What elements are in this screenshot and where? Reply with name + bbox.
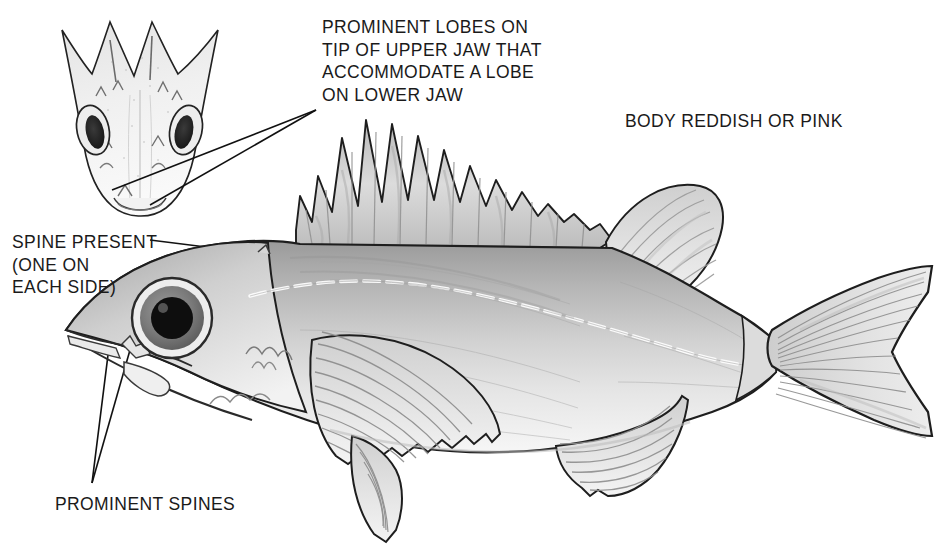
fish-body: [66, 120, 932, 542]
caudal-fin-outline: [768, 266, 933, 436]
label-upper-jaw-lobes: PROMINENT LOBES ON TIP OF UPPER JAW THAT…: [322, 16, 542, 106]
leader-spines-1: [92, 355, 108, 483]
label-body-color: BODY REDDISH OR PINK: [625, 110, 843, 133]
label-head-spine: SPINE PRESENT (ONE ON EACH SIDE): [12, 231, 157, 299]
label-opercular-spines: PROMINENT SPINES: [55, 493, 235, 516]
spiny-dorsal-fin: [296, 120, 612, 248]
pelvic-fin: [351, 436, 402, 542]
illustration-canvas: PROMINENT LOBES ON TIP OF UPPER JAW THAT…: [0, 0, 945, 545]
head-inset-dorsal-view: [62, 22, 218, 216]
caudal-fin: [768, 266, 933, 438]
eye-highlight: [158, 303, 168, 313]
eye-pupil: [151, 297, 193, 339]
